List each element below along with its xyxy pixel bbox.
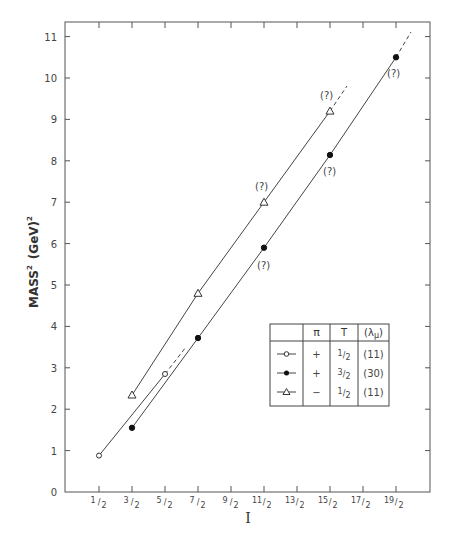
svg-text:/: / [263,498,266,507]
svg-text:9: 9 [51,114,57,125]
svg-text:(?): (?) [387,68,400,79]
uncertain-annotations: (?) (?) (?) (?) (?) [255,68,400,271]
svg-text:+: + [312,349,320,360]
svg-text:17: 17 [351,496,361,505]
svg-text:9: 9 [222,496,227,505]
svg-text:/: / [164,498,167,507]
svg-text:2: 2 [200,501,205,510]
y-tick-labels: 0 1 2 3 4 5 6 7 8 9 10 11 [44,32,57,498]
legend-header-T: T [340,327,348,338]
svg-text:13: 13 [285,496,295,505]
series-open-circle [99,347,186,456]
svg-text:2: 2 [233,501,238,510]
svg-text:3: 3 [51,363,57,374]
svg-text:MASS2(GeV)2: MASS2(GeV)2 [26,216,41,308]
svg-text:2: 2 [345,391,350,400]
legend-header-pi: π [313,326,320,339]
svg-text:(11): (11) [363,387,384,398]
svg-text:−: − [312,387,320,398]
svg-text:2: 2 [332,501,337,510]
svg-text:/: / [362,498,365,507]
svg-text:5: 5 [156,496,161,505]
svg-text:2: 2 [51,404,57,415]
open-circle-marker-icon [284,352,289,357]
svg-text:(?): (?) [255,181,268,192]
filled-circle-marker-icon [284,371,289,376]
x-tick-labels: 1/2 3/2 5/2 7/2 9/2 11/2 13/2 15/2 17/2 … [90,496,403,510]
svg-text:/: / [131,498,134,507]
svg-text:1: 1 [90,496,95,505]
svg-text:/: / [197,498,200,507]
svg-text:2: 2 [345,372,350,381]
regge-trajectory-chart: 0 1 2 3 4 5 6 7 8 9 10 11 1/2 3/2 5/2 7/… [0,0,453,538]
svg-text:/: / [329,498,332,507]
svg-text:11: 11 [44,32,57,43]
svg-text:2: 2 [299,501,304,510]
svg-text:2: 2 [101,501,106,510]
svg-text:2: 2 [365,501,370,510]
svg-text:(11): (11) [363,349,384,360]
svg-text:/: / [230,498,233,507]
svg-text:2: 2 [134,501,139,510]
y-axis-label: MASS2(GeV)2 [26,216,41,308]
svg-text:3: 3 [123,496,128,505]
svg-text:/: / [395,498,398,507]
svg-text:0: 0 [51,487,57,498]
svg-text:(?): (?) [323,166,336,177]
svg-text:7: 7 [189,496,194,505]
svg-text:/: / [296,498,299,507]
svg-text:8: 8 [51,156,57,167]
svg-text:2: 2 [167,501,172,510]
svg-text:15: 15 [318,496,328,505]
svg-text:19: 19 [384,496,394,505]
svg-text:2: 2 [266,501,271,510]
svg-text:1: 1 [51,446,57,457]
svg-text:11: 11 [252,496,262,505]
svg-text:+: + [312,368,320,379]
legend: π T (λμ) + 1/2 (11) + 3/2 (30) − 1/2 (11… [270,324,389,406]
svg-text:10: 10 [44,73,57,84]
svg-text:2: 2 [398,501,403,510]
x-axis-ticks [99,22,396,492]
svg-text:4: 4 [51,321,57,332]
svg-text:6: 6 [51,239,57,250]
plot-frame [65,22,430,492]
x-axis-label: I [245,510,251,526]
svg-text:5: 5 [51,280,57,291]
svg-text:/: / [98,498,101,507]
svg-text:2: 2 [345,353,350,362]
svg-text:(30): (30) [363,368,384,379]
svg-text:(?): (?) [257,260,270,271]
svg-text:(?): (?) [320,90,333,101]
svg-text:7: 7 [51,197,57,208]
